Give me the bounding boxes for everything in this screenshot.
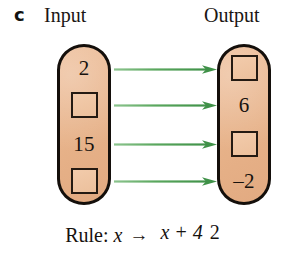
mapping-arrow-4-icon — [114, 176, 217, 187]
mapping-arrow-2-icon — [114, 100, 217, 111]
output-cell-1 — [220, 48, 268, 88]
input-blank-box-4[interactable] — [71, 168, 98, 194]
rule-row: Rule: x → x + 4 2 — [0, 222, 285, 248]
input-column-heading: Input — [44, 5, 86, 25]
input-value-1: 2 — [79, 58, 90, 79]
input-cell-4 — [60, 161, 108, 201]
rule-variable: x — [114, 222, 123, 248]
mapping-arrow-1-icon — [114, 64, 217, 75]
rule-maps-to-arrow-icon: → — [122, 222, 157, 248]
input-blank-box-2[interactable] — [71, 92, 98, 118]
input-cell-1: 2 — [60, 48, 108, 88]
output-value-2: 6 — [239, 95, 250, 116]
rule-denominator: 2 — [210, 221, 220, 243]
output-value-4: –2 — [233, 171, 254, 192]
output-blank-box-1[interactable] — [231, 55, 258, 81]
rule-label: Rule: — [65, 222, 108, 248]
output-cell-4: –2 — [220, 161, 268, 201]
output-pill: 6 –2 — [217, 44, 271, 205]
input-value-3: 15 — [73, 134, 94, 155]
rule-numerator: x + 4 — [157, 221, 205, 243]
output-cell-2: 6 — [220, 85, 268, 125]
output-column-heading: Output — [204, 5, 260, 25]
input-cell-3: 15 — [60, 124, 108, 164]
input-pill: 2 15 — [57, 44, 111, 205]
output-blank-box-3[interactable] — [231, 131, 258, 157]
rule-fraction: x + 4 2 — [157, 221, 219, 243]
mapping-arrow-3-icon — [114, 139, 217, 150]
output-cell-3 — [220, 124, 268, 164]
part-label-c: c — [14, 6, 25, 24]
input-cell-2 — [60, 85, 108, 125]
function-machine-diagram: c Input Output 2 15 6 –2 — [0, 0, 285, 259]
